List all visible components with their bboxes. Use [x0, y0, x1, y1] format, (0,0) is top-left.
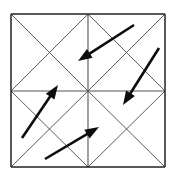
- arrow-lower-pointing-up-right: [45, 127, 99, 159]
- arrow-upper-head: [78, 49, 93, 61]
- arrow-right-shaft: [129, 48, 159, 96]
- arrow-right-head: [123, 90, 135, 105]
- figure-canvas: Grid of four squares with diagonals and …: [0, 0, 174, 179]
- arrow-right-pointing-down-left: [123, 48, 159, 105]
- grid-arrows-diagram: Grid of four squares with diagonals and …: [0, 0, 174, 179]
- arrow-lower-head: [84, 127, 99, 139]
- arrow-upper-shaft: [87, 25, 134, 55]
- arrow-lower-shaft: [45, 133, 90, 159]
- arrow-left-head: [46, 85, 58, 100]
- arrow-upper-pointing-down-left: [78, 25, 134, 61]
- arrow-left-pointing-up-right: [22, 85, 58, 138]
